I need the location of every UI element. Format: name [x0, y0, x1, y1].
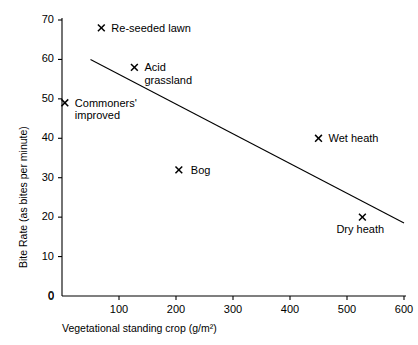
x-tick-label: 200 — [156, 304, 196, 315]
y-tick-label: 30 — [26, 172, 54, 183]
x-tick-label: 100 — [99, 304, 139, 315]
y-tick-label: 20 — [26, 211, 54, 222]
data-point-label: Wet heath — [329, 132, 379, 145]
data-point-label-line: Re-seeded lawn — [111, 22, 191, 35]
y-tick-marks — [58, 20, 62, 257]
data-point-label: Re-seeded lawn — [111, 22, 191, 35]
data-point-label: Dry heath — [336, 223, 384, 236]
y-tick-label: 10 — [26, 251, 54, 262]
x-tick-label: 300 — [213, 304, 253, 315]
y-tick-label: 50 — [26, 93, 54, 104]
y-axis-title: Bite Rate (as bites per minute) — [17, 126, 29, 268]
data-point-label-line: Commoners' — [75, 97, 137, 110]
y-tick-label: 60 — [26, 53, 54, 64]
data-point-label-line: Bog — [191, 164, 211, 177]
x-tick-label: 400 — [270, 304, 310, 315]
data-point-label: Bog — [191, 164, 211, 177]
x-tick-label: 500 — [327, 304, 367, 315]
axes — [62, 18, 406, 296]
x-tick-label: 0 — [22, 291, 54, 302]
data-point-label: Acidgrassland — [144, 61, 192, 86]
scatter-chart: 010203040506070 0100200300400500600 Re-s… — [0, 0, 418, 345]
y-tick-label: 40 — [26, 132, 54, 143]
x-tick-label: 600 — [384, 304, 418, 315]
data-point-marker — [98, 24, 105, 31]
x-axis-title: Vegetational standing crop (g/m²) — [62, 322, 217, 334]
y-tick-label: 70 — [26, 14, 54, 25]
data-point-label-line: Wet heath — [329, 132, 379, 145]
data-point-label-line: Acid — [144, 61, 192, 74]
data-point-label-line: grassland — [144, 74, 192, 87]
data-point-marker — [359, 214, 366, 221]
data-markers — [61, 24, 365, 220]
data-point-marker — [315, 135, 322, 142]
data-point-marker — [131, 64, 138, 71]
data-point-label-line: Dry heath — [336, 223, 384, 236]
x-tick-marks — [119, 296, 404, 300]
data-point-marker — [175, 166, 182, 173]
data-point-label-line: improved — [75, 109, 137, 122]
data-point-label: Commoners'improved — [75, 97, 137, 122]
